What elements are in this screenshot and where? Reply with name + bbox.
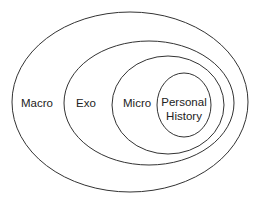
exo-label: Exo bbox=[76, 97, 96, 109]
history-label: History bbox=[166, 110, 202, 122]
personal-label: Personal bbox=[161, 96, 206, 108]
micro-label: Micro bbox=[123, 97, 151, 109]
nested-systems-diagram: Macro Exo Micro Personal History bbox=[0, 0, 254, 202]
macro-label: Macro bbox=[21, 97, 53, 109]
